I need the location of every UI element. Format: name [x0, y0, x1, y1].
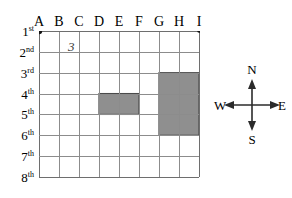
row-label-2nd: 2nd [4, 46, 34, 59]
row-label-7th: 7th [4, 150, 34, 163]
grid-svg [39, 31, 200, 178]
row-label-ordinal: th [28, 107, 34, 116]
column-label-B: B [49, 14, 69, 30]
column-label-E: E [109, 14, 129, 30]
row-label-ordinal: th [28, 128, 34, 137]
row-label-ordinal: th [28, 149, 34, 158]
row-label-ordinal: nd [26, 45, 34, 54]
row-label-ordinal: th [28, 170, 34, 179]
compass-south-arrowhead [248, 121, 256, 131]
column-label-G: G [149, 14, 169, 30]
compass-label-south: S [242, 133, 262, 146]
compass-north-arrowhead [248, 79, 256, 89]
row-label-1st: 1st [4, 25, 34, 38]
row-label-8th: 8th [4, 171, 34, 184]
compass-rose: N S E W [216, 63, 288, 147]
end-dot [197, 31, 200, 33]
compass-label-west: W [214, 99, 226, 112]
row-label-5th: 5th [4, 108, 34, 121]
row-label-6th: 6th [4, 129, 34, 142]
column-label-D: D [89, 14, 109, 30]
column-label-F: F [129, 14, 149, 30]
annotation-three: 3 [68, 40, 75, 53]
row-label-4th: 4th [4, 88, 34, 101]
row-label-3rd: 3rd [4, 67, 34, 80]
shaded-blocks[interactable] [99, 73, 199, 136]
compass-label-north: N [242, 63, 262, 76]
column-label-C: C [69, 14, 89, 30]
column-label-I: I [189, 14, 209, 30]
grid[interactable] [39, 31, 199, 177]
origin-dot [39, 31, 42, 34]
compass-label-east: E [278, 99, 290, 112]
column-label-H: H [169, 14, 189, 30]
row-label-ordinal: st [29, 24, 34, 33]
row-label-ordinal: rd [27, 65, 34, 74]
row-label-ordinal: th [28, 86, 34, 95]
diagram-canvas: ABCDEFGHI 1st2nd3rd4th5th6th7th8th 3 N S… [0, 0, 292, 198]
